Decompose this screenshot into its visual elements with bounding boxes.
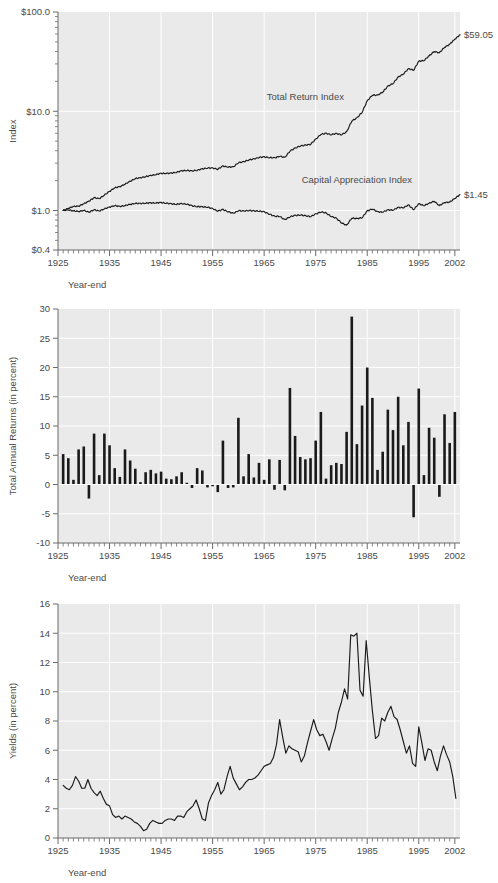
return-bar [433, 438, 436, 485]
return-bar [345, 432, 348, 485]
y-axis-label: Total Annual Returns (in percent) [7, 357, 18, 495]
return-bar [366, 368, 369, 485]
y-tick-label: 10 [39, 686, 50, 697]
return-bar [443, 414, 446, 484]
x-tick-label: 1995 [408, 550, 429, 561]
y-tick-label: $1.0 [32, 205, 51, 216]
return-bar [62, 454, 65, 484]
chart-panel-index: $100.0$10.0$1.0$0.4192519351945195519651… [0, 0, 498, 295]
y-tick-label: $0.4 [32, 244, 51, 255]
y-axis-label: Yields (in percent) [7, 683, 18, 759]
x-tick-label: 1935 [99, 550, 120, 561]
x-tick-label: 1945 [151, 257, 172, 268]
x-tick-label: 2002 [444, 845, 465, 856]
return-bar [201, 470, 204, 484]
x-tick-label: 1995 [408, 257, 429, 268]
return-bar [124, 449, 127, 484]
index-chart-svg: $100.0$10.0$1.0$0.4192519351945195519651… [0, 0, 498, 295]
return-bar [196, 468, 199, 484]
return-bar [350, 317, 353, 485]
y-tick-label: -5 [42, 508, 50, 519]
return-bar [423, 475, 426, 484]
x-axis-caption: Year-end [68, 867, 106, 878]
return-bar [356, 444, 359, 484]
plot-background [58, 12, 460, 250]
return-bar [263, 480, 266, 485]
x-tick-label: 1985 [357, 845, 378, 856]
return-bar [340, 464, 343, 484]
return-bar [247, 454, 250, 484]
y-tick-label: 4 [45, 774, 50, 785]
x-tick-label: 1975 [305, 257, 326, 268]
return-bar [392, 430, 395, 484]
return-bar [402, 445, 405, 484]
return-bar [258, 463, 261, 485]
x-tick-label: 1965 [254, 845, 275, 856]
x-tick-label: 1945 [151, 550, 172, 561]
return-bar [314, 441, 317, 485]
return-bar [412, 485, 415, 518]
return-bar [325, 479, 328, 485]
x-axis-caption: Year-end [68, 572, 106, 583]
return-bar [222, 441, 225, 485]
y-tick-label: $100.0 [21, 6, 50, 17]
return-bar [103, 434, 106, 485]
y-tick-label: 10 [39, 420, 50, 431]
x-tick-label: 1925 [47, 257, 68, 268]
return-bar [309, 458, 312, 484]
x-tick-label: 1935 [99, 257, 120, 268]
y-tick-label: 8 [45, 715, 50, 726]
return-bar [417, 389, 420, 485]
return-bar [108, 445, 111, 484]
return-bar [283, 485, 286, 491]
return-bar [294, 436, 297, 485]
y-tick-label: 16 [39, 598, 50, 609]
x-tick-label: 1955 [202, 550, 223, 561]
return-bar [88, 485, 91, 499]
return-bar [371, 398, 374, 485]
return-bar [72, 480, 75, 485]
return-bar [237, 418, 240, 485]
return-bar [454, 412, 457, 485]
y-axis-label: Index [7, 119, 18, 142]
return-bar [119, 477, 122, 485]
return-bar [155, 473, 158, 484]
return-bar [268, 459, 271, 484]
x-tick-label: 1945 [151, 845, 172, 856]
x-tick-label: 1975 [305, 550, 326, 561]
y-tick-label: 2 [45, 803, 50, 814]
return-bar [397, 397, 400, 485]
x-tick-label: 1925 [47, 845, 68, 856]
return-bar [278, 460, 281, 485]
return-bar [227, 485, 230, 489]
return-bar [160, 472, 163, 485]
return-bar [253, 477, 256, 484]
return-bar [289, 388, 292, 485]
x-tick-label: 2002 [444, 550, 465, 561]
return-bar [113, 468, 116, 484]
return-bar [216, 485, 219, 493]
return-bar [273, 485, 276, 490]
y-tick-label: 30 [39, 303, 50, 314]
return-bar [134, 469, 137, 485]
return-bar [77, 449, 80, 484]
return-bar [82, 446, 85, 484]
return-bar [180, 472, 183, 484]
return-bar [381, 452, 384, 485]
x-tick-label: 1935 [99, 845, 120, 856]
returns-chart-svg: 302520151050-5-1019251935194519551965197… [0, 295, 498, 588]
x-tick-label: 1965 [254, 550, 275, 561]
yields-chart-svg: 1614121086420192519351945195519651975198… [0, 588, 498, 883]
y-tick-label: 5 [45, 450, 50, 461]
y-tick-label: 0 [45, 479, 50, 490]
return-bar [376, 470, 379, 485]
y-tick-label: $10.0 [26, 106, 50, 117]
endpoint-label-total-return: $59.05 [464, 29, 493, 40]
y-tick-label: 15 [39, 391, 50, 402]
return-bar [304, 459, 307, 484]
return-bar [149, 470, 152, 485]
annotation-capital-appreciation-index: Capital Appreciation Index [302, 174, 413, 185]
y-tick-label: 20 [39, 362, 50, 373]
y-tick-label: 6 [45, 745, 50, 756]
return-bar [387, 410, 390, 485]
